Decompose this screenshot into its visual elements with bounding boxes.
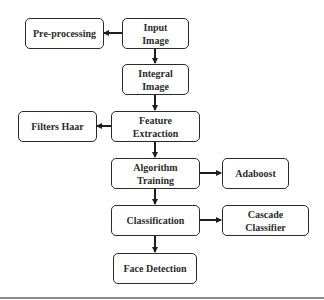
node-cascade-classifier: CascadeClassifier — [222, 205, 309, 236]
node-label: FeatureExtraction — [133, 114, 179, 140]
node-label: IntegralImage — [138, 67, 172, 93]
node-algorithm-training: AlgorithmTraining — [111, 158, 200, 189]
node-preprocessing: Pre-processing — [25, 18, 104, 49]
node-feature-extraction: FeatureExtraction — [111, 111, 200, 142]
node-integral-image: IntegralImage — [122, 64, 189, 95]
node-label: Face Detection — [123, 262, 186, 275]
node-label: InputImage — [142, 21, 169, 47]
bottom-divider — [0, 297, 324, 299]
flowchart-canvas: Pre-processing InputImage IntegralImage … — [0, 0, 324, 300]
node-label: Pre-processing — [33, 27, 96, 40]
node-adaboost: Adaboost — [222, 158, 289, 189]
node-label: Adaboost — [235, 167, 276, 180]
node-label: CascadeClassifier — [245, 208, 286, 234]
node-classification: Classification — [111, 205, 200, 236]
node-label: Filters Haar — [31, 120, 83, 133]
node-face-detection: Face Detection — [113, 253, 197, 284]
node-label: AlgorithmTraining — [133, 161, 177, 187]
node-input-image: InputImage — [122, 18, 189, 49]
node-label: Classification — [127, 214, 185, 227]
node-filters-haar: Filters Haar — [18, 111, 97, 142]
